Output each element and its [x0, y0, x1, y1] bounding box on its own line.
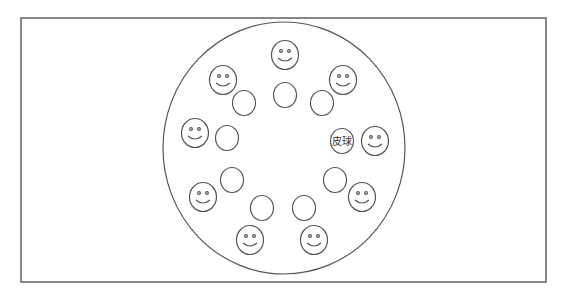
ball-label: 皮球 — [332, 135, 352, 147]
diagram-frame — [21, 18, 546, 282]
diagram-canvas: 皮球 — [0, 0, 565, 299]
